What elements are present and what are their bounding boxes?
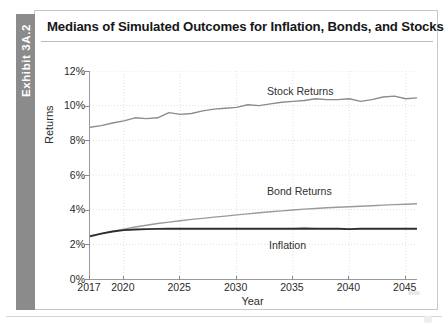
y-tick-label: 12% — [41, 66, 85, 77]
series-annotation-inflation: Inflation — [269, 239, 306, 251]
series-annotation-bond-returns: Bond Returns — [267, 185, 332, 197]
series-lines — [90, 96, 417, 236]
x-tick-label: 2017 — [77, 282, 100, 293]
exhibit-panel: Medians of Simulated Outcomes for Inflat… — [34, 10, 438, 310]
y-tick-label: 4% — [41, 204, 85, 215]
x-tick-mark — [292, 276, 293, 280]
x-axis-ticks: 2017202020252030203520402045 — [89, 280, 416, 296]
exhibit-tab-label: Exhibit 3A.2 — [20, 24, 32, 97]
y-tick-label: 6% — [41, 170, 85, 181]
x-tick-label: 2035 — [280, 282, 303, 293]
x-tick-label: 2025 — [168, 282, 191, 293]
y-tick-label: 8% — [41, 135, 85, 146]
x-tick-mark — [348, 276, 349, 280]
chart-figure: Returns 0%2%4%6%8%10%12% 201720202025203… — [35, 43, 437, 309]
x-tick-mark — [89, 276, 90, 280]
y-axis-ticks: 0%2%4%6%8%10%12% — [35, 71, 85, 279]
scan-artifact-lower — [424, 316, 432, 323]
scan-artifact — [408, 291, 420, 295]
series-annotation-stock-returns: Stock Returns — [267, 85, 334, 97]
x-tick-mark — [123, 276, 124, 280]
x-tick-label: 2020 — [111, 282, 134, 293]
y-tick-label: 10% — [41, 100, 85, 111]
series-line-inflation — [90, 229, 417, 237]
exhibit-tab: Exhibit 3A.2 — [16, 14, 35, 310]
page-baseline-rule — [6, 316, 442, 317]
gridlines — [90, 71, 417, 279]
x-tick-label: 2040 — [337, 282, 360, 293]
x-tick-label: 2030 — [224, 282, 247, 293]
title-divider — [41, 41, 433, 42]
series-line-bond-returns — [90, 204, 417, 236]
plot-svg — [90, 71, 417, 279]
y-tick-label: 2% — [41, 239, 85, 250]
exhibit-figure: Exhibit 3A.2 Medians of Simulated Outcom… — [0, 0, 448, 326]
x-tick-mark — [405, 276, 406, 280]
exhibit-title: Medians of Simulated Outcomes for Inflat… — [47, 19, 431, 34]
x-tick-mark — [236, 276, 237, 280]
plot-area — [89, 71, 417, 280]
series-line-stock-returns — [90, 96, 417, 127]
x-tick-mark — [179, 276, 180, 280]
x-axis-title: Year — [89, 295, 416, 307]
